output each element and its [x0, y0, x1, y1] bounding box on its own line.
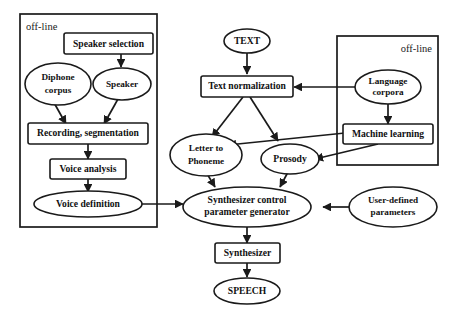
- node-text-label: TEXT: [234, 35, 261, 46]
- edge-text-normalization-to-letter-to-phoneme: [212, 97, 243, 137]
- node-letter-to-phoneme-label-line2: Phoneme: [188, 156, 224, 166]
- node-text-normalization[interactable]: Text normalization: [201, 76, 293, 97]
- node-synthesizer-label: Synthesizer: [224, 247, 272, 258]
- edge-machine-learning-to-prosody: [315, 144, 378, 159]
- node-voice-definition-label: Voice definition: [56, 198, 121, 209]
- node-recording-segmentation-label: Recording, segmentation: [37, 127, 139, 138]
- node-synth-control-label-line1: Synthesizer control: [208, 194, 287, 205]
- node-machine-learning-label: Machine learning: [352, 128, 424, 139]
- node-recording-segmentation[interactable]: Recording, segmentation: [28, 123, 148, 144]
- node-text-normalization-label: Text normalization: [208, 80, 286, 91]
- node-prosody[interactable]: Prosody: [261, 144, 319, 174]
- node-text[interactable]: TEXT: [224, 29, 270, 53]
- node-speech-label: SPEECH: [228, 285, 267, 296]
- node-machine-learning[interactable]: Machine learning: [343, 124, 433, 144]
- node-language-corpora[interactable]: Language corpora: [355, 70, 421, 104]
- edge-speaker-to-recording: [104, 99, 118, 124]
- node-user-params-label-line1: User-defined: [368, 195, 418, 205]
- node-letter-to-phoneme[interactable]: Letter to Phoneme: [170, 134, 242, 176]
- node-letter-to-phoneme-label-line1: Letter to: [189, 143, 224, 153]
- node-synth-control-label-line2: parameter generator: [204, 206, 290, 217]
- node-language-corpora-label-line2: corpora: [372, 87, 404, 97]
- node-synthesizer[interactable]: Synthesizer: [215, 243, 280, 263]
- node-voice-definition[interactable]: Voice definition: [34, 191, 142, 217]
- node-speech[interactable]: SPEECH: [214, 278, 280, 304]
- node-prosody-label: Prosody: [273, 153, 307, 164]
- node-user-params-label-line2: parameters: [371, 207, 416, 217]
- group-offline-right-label: off-line: [401, 43, 433, 54]
- node-speaker-selection-label: Speaker selection: [73, 38, 145, 49]
- node-speaker-selection[interactable]: Speaker selection: [64, 33, 153, 54]
- node-voice-analysis[interactable]: Voice analysis: [50, 159, 126, 179]
- node-voice-analysis-label: Voice analysis: [60, 163, 117, 174]
- group-offline-left-label: off-line: [26, 21, 58, 32]
- node-language-corpora-label-line1: Language: [369, 76, 408, 86]
- edge-machine-learning-to-letter-to-phoneme: [228, 133, 345, 145]
- node-user-params[interactable]: User-defined parameters: [349, 187, 437, 227]
- node-speaker[interactable]: Speaker: [93, 68, 151, 100]
- edge-text-normalization-to-prosody: [250, 97, 278, 141]
- node-diphone-corpus-label-line2: corpus: [45, 85, 72, 95]
- node-diphone-corpus-label-line1: Diphone: [41, 72, 74, 82]
- node-synth-control[interactable]: Synthesizer control parameter generator: [183, 187, 311, 227]
- node-diphone-corpus[interactable]: Diphone corpus: [25, 63, 91, 105]
- tts-system-diagram: off-line off-line Speaker selection: [0, 0, 459, 321]
- node-speaker-label: Speaker: [106, 79, 138, 89]
